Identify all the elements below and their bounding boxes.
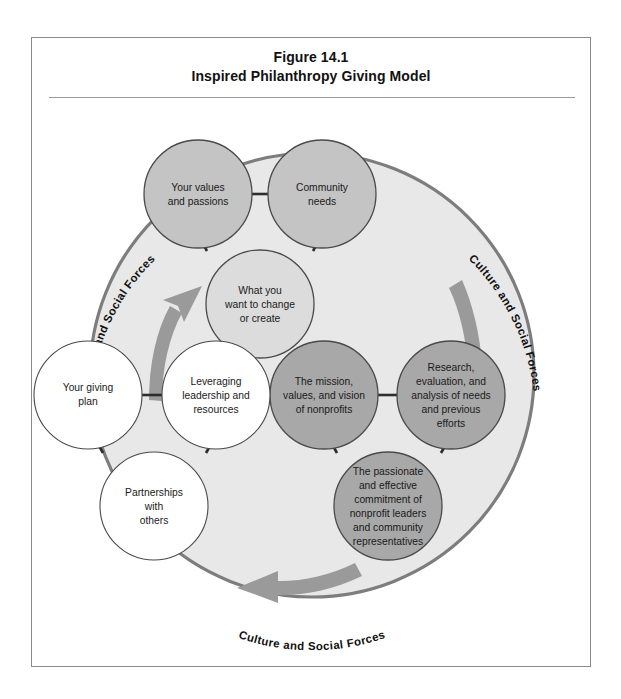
node-leveraging-line2: leadership and [182, 390, 250, 401]
node-passionate-line3: commitment of [354, 494, 422, 505]
node-what-you-want-line3: or create [240, 313, 281, 324]
node-giving-plan-line2: plan [78, 396, 98, 407]
node-leveraging-line3: resources [193, 404, 238, 415]
node-your-values[interactable]: Your values and passions [144, 140, 252, 248]
node-passionate-line1: The passionate [353, 466, 424, 477]
node-passionate-commitment[interactable]: The passionate and effective commitment … [334, 452, 442, 560]
node-community-needs-line2: needs [308, 196, 336, 207]
node-community-needs[interactable]: Community needs [268, 140, 376, 248]
node-community-needs-line1: Community [296, 182, 349, 193]
node-research-line4: and previous [422, 404, 481, 415]
node-mission-values-vision[interactable]: The mission, values, and vision of nonpr… [270, 341, 378, 449]
node-your-values-line1: Your values [171, 182, 224, 193]
node-research-line2: evaluation, and [416, 376, 486, 387]
culture-label-bottom: Culture and Social Forces [237, 628, 386, 652]
node-research-line1: Research, [428, 362, 475, 373]
node-partnerships-line2: with [144, 501, 164, 512]
node-giving-plan-line1: Your giving [63, 382, 114, 393]
node-research-evaluation[interactable]: Research, evaluation, and analysis of ne… [397, 341, 505, 449]
node-partnerships-line3: others [140, 515, 169, 526]
figure-title-block: Figure 14.1 Inspired Philanthropy Giving… [32, 38, 590, 86]
node-partnerships-line1: Partnerships [125, 487, 183, 498]
node-mission-line1: The mission, [295, 376, 353, 387]
figure-frame: Figure 14.1 Inspired Philanthropy Giving… [31, 37, 591, 667]
node-passionate-line4: nonprofit leaders [350, 508, 427, 519]
node-research-line5: efforts [437, 418, 465, 429]
node-passionate-line5: and community [353, 522, 424, 533]
node-passionate-line6: representatives [353, 536, 423, 547]
node-what-you-want-line1: What you [238, 285, 282, 296]
node-mission-line2: values, and vision [283, 390, 365, 401]
node-leveraging-line1: Leveraging [191, 376, 242, 387]
node-passionate-line2: and effective [359, 480, 417, 491]
node-partnerships-with-others[interactable]: Partnerships with others [100, 452, 208, 560]
diagram-stage: Culture and Social Forces Culture and So… [32, 100, 592, 666]
node-your-values-line2: and passions [168, 196, 229, 207]
figure-title: Inspired Philanthropy Giving Model [32, 67, 590, 86]
figure-number: Figure 14.1 [32, 48, 590, 67]
node-research-line3: analysis of needs [411, 390, 491, 401]
node-what-you-want-line2: want to change [224, 299, 295, 310]
node-your-giving-plan[interactable]: Your giving plan [34, 341, 142, 449]
node-mission-line3: of nonprofits [296, 404, 353, 415]
node-leveraging-leadership[interactable]: Leveraging leadership and resources [162, 341, 270, 449]
title-divider [49, 97, 575, 98]
